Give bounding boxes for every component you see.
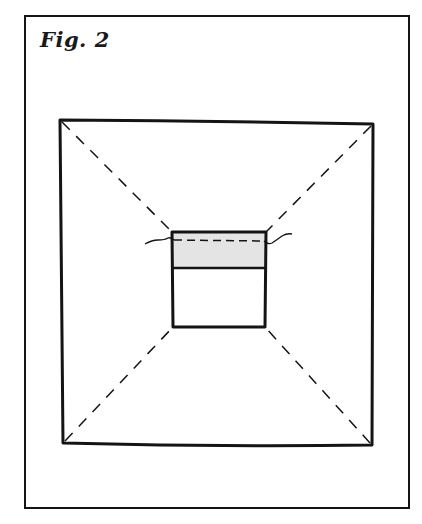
shaded-band xyxy=(173,233,265,268)
string-right xyxy=(264,234,292,244)
string-left xyxy=(145,238,174,244)
diagonal-bottom-left xyxy=(65,327,173,441)
diagonal-top-left xyxy=(62,122,172,232)
pyramid-diagram xyxy=(0,0,422,524)
diagonal-top-right xyxy=(266,126,371,232)
diagonal-bottom-right xyxy=(265,327,370,443)
